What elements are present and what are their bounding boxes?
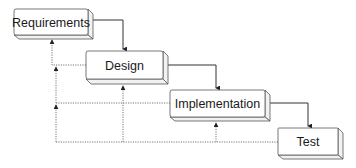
stage-label: Design — [105, 59, 144, 73]
stage-label: Test — [297, 135, 320, 149]
feedback-design-to-requirements — [52, 40, 86, 65]
flow-design-to-implementation — [168, 65, 216, 88]
stage-implementation[interactable]: Implementation — [170, 90, 270, 121]
stage-test[interactable]: Test — [278, 128, 343, 159]
stage-requirements[interactable]: Requirements — [12, 9, 93, 39]
stage-label: Implementation — [175, 97, 261, 111]
waterfall-diagram: Requirements Design Implementation Test — [0, 0, 356, 168]
flow-implementation-to-test — [270, 103, 308, 126]
stage-label: Requirements — [12, 16, 90, 30]
flow-requirements-to-design — [93, 20, 123, 49]
stage-design[interactable]: Design — [86, 51, 168, 84]
